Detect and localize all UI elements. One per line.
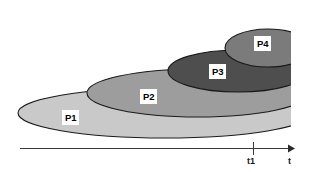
phase-label-p1: P1 (62, 110, 79, 125)
phase-overlap-diagram: P1 P2 P3 P4 t1 t (0, 0, 309, 172)
time-axis-arrowhead (288, 145, 295, 153)
phase-label-p4: P4 (254, 36, 271, 51)
phase-label-p2: P2 (140, 89, 157, 104)
axis-tick-label-t1: t1 (247, 157, 255, 166)
diagram-canvas (0, 0, 309, 172)
phase-label-p3: P3 (209, 64, 226, 79)
axis-name-label-t: t (288, 157, 291, 166)
